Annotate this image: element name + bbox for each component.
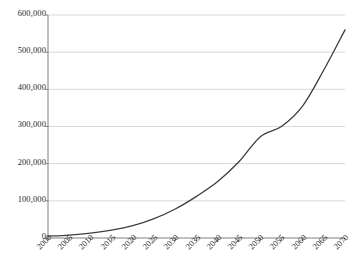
line-chart: 600,000 500,000 400,000 300,000 200,000 … bbox=[0, 0, 354, 280]
data-series-line bbox=[48, 30, 345, 236]
